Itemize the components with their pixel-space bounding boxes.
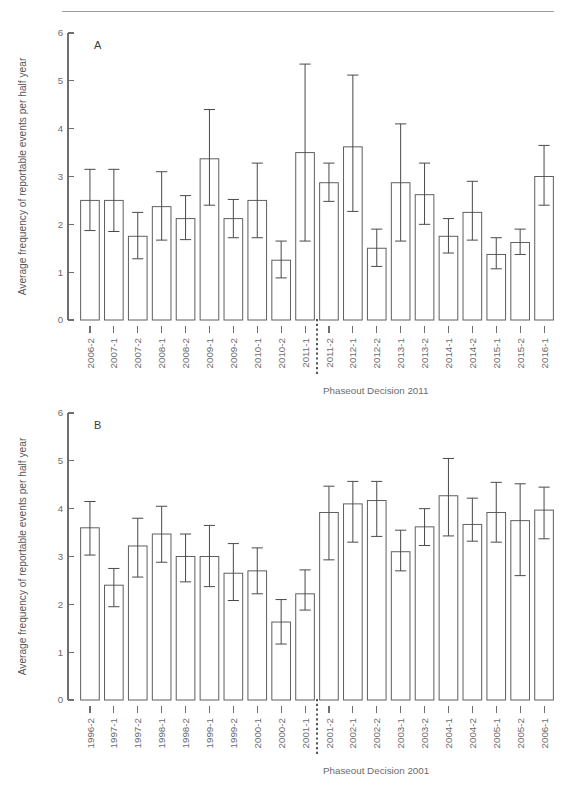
x-tick-label-2000-1: 2000-1: [252, 718, 263, 749]
x-tick-label-1997-1: 1997-1: [108, 718, 119, 749]
bar-2011-2[interactable]: [320, 183, 339, 320]
x-tick-label-1998-2: 1998-2: [180, 718, 191, 749]
y-tick-label-2: 2: [58, 219, 63, 230]
y-tick-label-5: 5: [58, 75, 63, 86]
panel-a: 0123456Average frequency of reportable e…: [0, 18, 572, 414]
y-tick-label-6: 6: [58, 27, 63, 38]
x-tick-label-2002-1: 2002-1: [347, 718, 358, 749]
x-tick-label-1996-2: 1996-2: [85, 718, 96, 749]
figure-page: 0123456Average frequency of reportable e…: [0, 0, 572, 794]
x-tick-label-1998-1: 1998-1: [156, 718, 167, 749]
x-tick-label-2016-1: 2016-1: [539, 338, 550, 369]
y-tick-label-5: 5: [58, 455, 63, 466]
x-tick-label-2001-2: 2001-2: [324, 718, 335, 749]
x-tick-label-2013-2: 2013-2: [419, 338, 430, 369]
x-tick-label-2013-1: 2013-1: [395, 338, 406, 369]
y-tick-label-1: 1: [58, 267, 63, 278]
y-tick-label-3: 3: [58, 171, 63, 182]
x-tick-label-2007-1: 2007-1: [108, 338, 119, 369]
x-tick-label-2006-1: 2006-1: [539, 718, 550, 749]
x-tick-label-2003-2: 2003-2: [419, 718, 430, 749]
x-tick-label-2012-1: 2012-1: [347, 338, 358, 369]
x-tick-label-2007-2: 2007-2: [132, 338, 143, 369]
x-tick-label-2005-1: 2005-1: [491, 718, 502, 749]
x-tick-label-1999-1: 1999-1: [204, 718, 215, 749]
x-tick-label-2001-1: 2001-1: [300, 718, 311, 749]
x-tick-label-2003-1: 2003-1: [395, 718, 406, 749]
chart-svg-b: 0123456Average frequency of reportable e…: [0, 398, 572, 794]
y-axis-title: Average frequency of reportable events p…: [17, 57, 28, 295]
x-tick-label-2014-1: 2014-1: [443, 338, 454, 369]
panel-b: 0123456Average frequency of reportable e…: [0, 398, 572, 794]
y-tick-label-4: 4: [58, 123, 64, 134]
y-tick-label-4: 4: [58, 503, 64, 514]
x-tick-label-2000-2: 2000-2: [276, 718, 287, 749]
bar-2004-2[interactable]: [463, 524, 482, 700]
y-tick-label-0: 0: [58, 694, 63, 705]
x-tick-label-1997-2: 1997-2: [132, 718, 143, 749]
y-tick-label-6: 6: [58, 407, 63, 418]
y-tick-label-3: 3: [58, 551, 63, 562]
x-tick-label-2002-2: 2002-2: [371, 718, 382, 749]
x-tick-label-2010-2: 2010-2: [276, 338, 287, 369]
y-tick-label-0: 0: [58, 314, 63, 325]
x-tick-label-2009-2: 2009-2: [228, 338, 239, 369]
panel-letter: A: [94, 39, 102, 51]
y-axis-title: Average frequency of reportable events p…: [17, 437, 28, 675]
x-tick-label-2015-1: 2015-1: [491, 338, 502, 369]
x-tick-label-2008-2: 2008-2: [180, 338, 191, 369]
top-horizontal-rule: [62, 11, 554, 12]
y-tick-label-2: 2: [58, 599, 63, 610]
bar-2003-1[interactable]: [391, 552, 410, 700]
chart-svg-a: 0123456Average frequency of reportable e…: [0, 18, 572, 414]
x-tick-label-2010-1: 2010-1: [252, 338, 263, 369]
x-axis-caption: Phaseout Decision 2001: [323, 765, 429, 776]
x-tick-label-2004-2: 2004-2: [467, 718, 478, 749]
y-tick-label-1: 1: [58, 647, 63, 658]
x-tick-label-2008-1: 2008-1: [156, 338, 167, 369]
x-tick-label-2006-2: 2006-2: [85, 338, 96, 369]
panel-letter: B: [94, 419, 101, 431]
x-tick-label-2011-1: 2011-1: [300, 338, 311, 368]
x-tick-label-2014-2: 2014-2: [467, 338, 478, 369]
bar-2003-2[interactable]: [415, 527, 434, 700]
x-tick-label-2012-2: 2012-2: [371, 338, 382, 369]
x-tick-label-2011-2: 2011-2: [324, 338, 335, 368]
x-tick-label-2004-1: 2004-1: [443, 718, 454, 749]
x-tick-label-1999-2: 1999-2: [228, 718, 239, 749]
x-tick-label-2009-1: 2009-1: [204, 338, 215, 369]
x-axis-caption: Phaseout Decision 2011: [323, 385, 428, 396]
x-tick-label-2005-2: 2005-2: [515, 718, 526, 749]
x-tick-label-2015-2: 2015-2: [515, 338, 526, 369]
